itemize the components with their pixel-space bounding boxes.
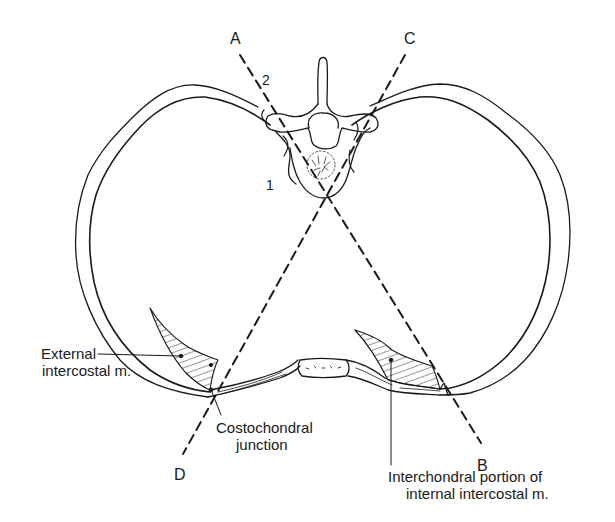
right-rib-outer (370, 84, 570, 395)
label-interchondral-line1: Interchondral portion of (388, 468, 542, 485)
vertebral-body-texture (307, 151, 335, 179)
marker-1: 1 (266, 177, 274, 194)
leader-dot-interchondral (389, 358, 393, 362)
label-external-intercostal-line1: External (20, 345, 96, 362)
marker-2: 2 (262, 72, 270, 89)
plane-label-c: C (404, 30, 416, 47)
muscle-dot-external-2 (209, 363, 212, 366)
external-intercostal-muscle (150, 308, 218, 390)
thorax-cross-section-diagram (0, 0, 615, 522)
vertebral-foramen (308, 113, 338, 128)
vertebral-arch (266, 104, 378, 149)
sternum-texture (306, 366, 341, 369)
plane-line-cd (183, 55, 405, 454)
label-interchondral-line2: internal intercostal m. (406, 485, 549, 502)
interchondral-muscle (355, 330, 440, 389)
spinous-process (318, 58, 328, 105)
leader-dot-external (179, 354, 183, 358)
label-external-intercostal-line2: intercostal m. (42, 362, 131, 379)
left-rib-head (262, 110, 288, 156)
label-costochondral-line1: Costochondral (216, 419, 313, 436)
plane-label-a: A (230, 30, 241, 47)
plane-label-d: D (174, 466, 186, 483)
leader-dot-costochondral (209, 388, 213, 392)
left-rib-outer (76, 85, 259, 397)
leader-external-intercostal (98, 354, 180, 356)
label-costochondral-line2: junction (236, 436, 288, 453)
left-cartilage-detail (218, 372, 286, 394)
